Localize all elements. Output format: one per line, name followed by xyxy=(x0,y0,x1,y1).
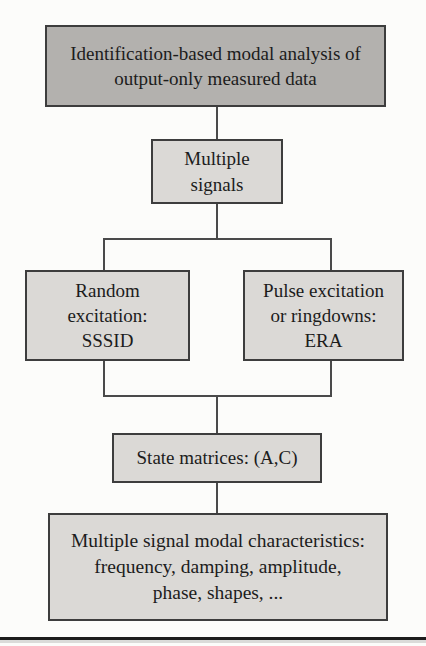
page-bottom-rule xyxy=(0,637,426,640)
node-pulse-excitation: Pulse excitation or ringdowns: ERA xyxy=(243,270,404,361)
connector-root-to-signals xyxy=(216,107,218,139)
node-pulse-excitation-line: Pulse excitation xyxy=(263,278,384,303)
connector-merge-to-state xyxy=(216,396,218,433)
node-random-excitation: Random excitation: SSSID xyxy=(25,270,190,361)
node-multiple-signals-line: signals xyxy=(191,172,244,197)
connector-branch-right-down xyxy=(330,239,332,270)
node-modal-characteristics-line: phase, shapes, ... xyxy=(153,580,284,606)
node-modal-characteristics: Multiple signal modal characteristics: f… xyxy=(48,513,388,621)
node-random-excitation-line: SSSID xyxy=(82,328,134,353)
node-root-line: Identification-based modal analysis of xyxy=(70,41,361,66)
flowchart: Identification-based modal analysis of o… xyxy=(0,0,426,646)
node-modal-characteristics-line: Multiple signal modal characteristics: xyxy=(71,528,365,554)
connector-branch-left-down xyxy=(103,239,105,270)
node-multiple-signals-line: Multiple xyxy=(184,146,249,171)
node-root-line: output-only measured data xyxy=(114,66,317,91)
node-pulse-excitation-line: or ringdowns: xyxy=(270,303,376,328)
node-random-excitation-line: excitation: xyxy=(67,303,147,328)
connector-merge-right-down xyxy=(330,361,332,396)
node-modal-characteristics-line: frequency, damping, amplitude, xyxy=(94,554,341,580)
node-root-title: Identification-based modal analysis of o… xyxy=(45,25,386,107)
connector-branch-horizontal xyxy=(103,238,332,240)
node-multiple-signals: Multiple signals xyxy=(151,139,283,204)
node-pulse-excitation-line: ERA xyxy=(305,328,343,353)
connector-signals-down xyxy=(216,204,218,239)
node-state-matrices: State matrices: (A,C) xyxy=(112,433,322,483)
connector-state-to-output xyxy=(216,483,218,513)
connector-merge-left-down xyxy=(103,361,105,396)
node-state-matrices-line: State matrices: (A,C) xyxy=(137,445,298,470)
node-random-excitation-line: Random xyxy=(75,278,139,303)
